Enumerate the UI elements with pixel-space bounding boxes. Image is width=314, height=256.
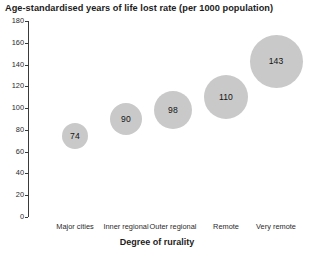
x-axis-category-label: Remote	[213, 222, 239, 231]
bubble-point: 98	[154, 91, 192, 129]
bubble-value-label: 143	[269, 57, 284, 66]
y-axis-tick-label: 160	[0, 39, 24, 47]
x-axis-category-label: Major cities	[56, 222, 93, 231]
y-axis-tick-mark	[25, 108, 28, 109]
bubble-value-label: 98	[168, 106, 178, 115]
bubble-value-label: 110	[219, 93, 233, 102]
y-axis-tick-label: 140	[0, 61, 24, 69]
y-axis-tick-mark	[25, 43, 28, 44]
x-axis-category-label: Inner regional	[103, 222, 148, 231]
y-axis-tick-label: 120	[0, 82, 24, 90]
bubble-point: 90	[110, 103, 142, 135]
y-axis-tick-mark	[25, 217, 28, 218]
x-axis-category-label: Outer regional	[150, 222, 197, 231]
y-axis-tick-label: 0	[0, 213, 24, 221]
bubble-point: 110	[204, 75, 248, 119]
y-axis-tick-mark	[25, 152, 28, 153]
bubble-chart: Age-standardised years of life lost rate…	[0, 0, 314, 256]
y-axis-tick-mark	[25, 21, 28, 22]
x-axis-title: Degree of rurality	[0, 237, 314, 247]
bubble-point: 74	[62, 123, 88, 149]
y-axis-tick-mark	[25, 65, 28, 66]
y-axis-tick-label: 20	[0, 191, 24, 199]
y-axis-tick-label: 40	[0, 169, 24, 177]
y-axis-tick-label: 180	[0, 17, 24, 25]
bubble-point: 143	[250, 35, 303, 88]
y-axis-tick-mark	[25, 173, 28, 174]
y-axis-tick-label: 60	[0, 148, 24, 156]
y-axis-tick-label: 80	[0, 126, 24, 134]
y-axis-tick-label: 100	[0, 104, 24, 112]
y-axis-tick-mark	[25, 86, 28, 87]
bubble-value-label: 90	[121, 115, 131, 124]
x-axis-category-label: Very remote	[256, 222, 296, 231]
y-axis-tick-mark	[25, 195, 28, 196]
y-axis-tick-mark	[25, 130, 28, 131]
plot-area: 180160140120100806040200 749098110143 Ma…	[0, 0, 314, 256]
bubble-value-label: 74	[70, 132, 80, 141]
y-axis-line	[28, 21, 29, 217]
